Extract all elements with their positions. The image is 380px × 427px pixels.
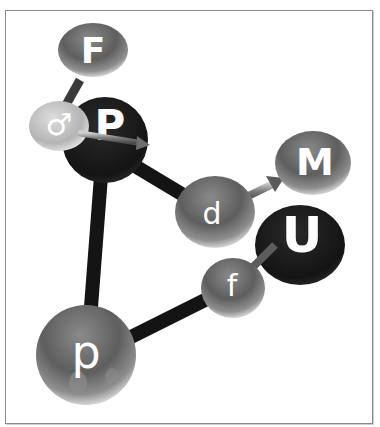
edge-p-f [125, 295, 215, 340]
node-M-label: M [296, 140, 334, 184]
node-p[interactable]: p [36, 305, 136, 405]
node-male[interactable]: ♂ [29, 101, 89, 151]
node-F[interactable]: F [58, 23, 128, 77]
node-d[interactable]: d [175, 176, 255, 248]
node-U-label: U [282, 206, 323, 264]
node-p-label: p [71, 325, 100, 379]
node-M[interactable]: M [275, 131, 351, 195]
node-f-label: f [227, 268, 239, 303]
node-F-label: F [81, 30, 106, 71]
node-d-label: d [202, 196, 221, 231]
node-U[interactable]: U [255, 205, 345, 285]
node-f[interactable]: f [201, 258, 265, 318]
molecule-diagram: F U P ♂ M d f [0, 0, 380, 427]
node-male-label: ♂ [46, 107, 73, 142]
